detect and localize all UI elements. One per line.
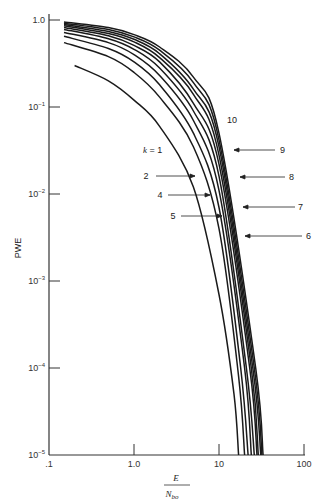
x-tick-label: .1 xyxy=(45,459,53,469)
label-10: 10 xyxy=(227,115,237,125)
x-tick-label: 100 xyxy=(296,459,311,469)
y-tick-label: 1.0 xyxy=(32,15,45,25)
x-tick-label: 10 xyxy=(214,459,224,469)
label-5: 5 xyxy=(170,211,175,221)
curve-k-2 xyxy=(64,43,245,455)
label-9: 9 xyxy=(280,145,285,155)
label-7: 7 xyxy=(298,202,303,212)
label-2: 2 xyxy=(143,171,148,181)
y-tick-label: 10−3 xyxy=(28,275,46,286)
label-4: 4 xyxy=(157,190,162,200)
curve-k-3 xyxy=(64,36,248,455)
y-tick-label: 10−1 xyxy=(28,101,46,112)
y-tick-label: 10−4 xyxy=(28,362,46,373)
label-8: 8 xyxy=(289,172,294,182)
y-ticks: 1.010−110−210−310−410−5 xyxy=(28,15,60,460)
x-label-numerator: E xyxy=(172,473,179,483)
y-axis-label: PWE xyxy=(13,238,23,259)
curves xyxy=(64,22,263,455)
label-k1: k = 1 xyxy=(143,145,162,155)
y-tick-label: 10−5 xyxy=(28,449,46,460)
x-label-denominator: Nbo xyxy=(164,489,179,501)
label-6: 6 xyxy=(306,231,311,241)
x-ticks: .11.010100 xyxy=(45,444,311,469)
y-tick-label: 10−2 xyxy=(28,188,46,199)
curve-k-5 xyxy=(64,29,254,455)
x-tick-label: 1.0 xyxy=(128,459,141,469)
pwe-chart: 1.010−110−210−310−410−5 .11.010100 PWE E… xyxy=(0,0,327,503)
